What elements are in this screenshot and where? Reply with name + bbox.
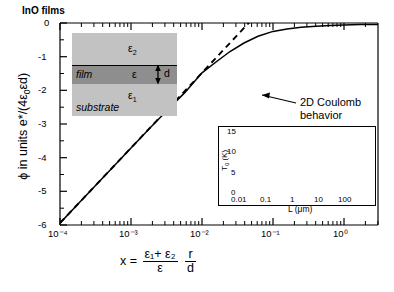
y-tick-label: -6 [38, 219, 46, 230]
inset-x-tick-label: 100 [338, 195, 351, 204]
x-tick-label: 10⁻³ [119, 228, 138, 239]
annotation-line-2: behavior [300, 109, 361, 122]
inset-x-tick-label: 0.1 [260, 195, 271, 204]
y-tick-label: -2 [38, 84, 46, 95]
inset-y-tick-label: 5 [231, 168, 235, 177]
x-axis-label: x = ε₁+ ε₂ ε r d [120, 248, 198, 275]
inset-x-tick-label: 0.01 [231, 195, 247, 204]
y-axis-label: ϕ in units e*/(4ε0εd) [16, 36, 33, 216]
y-tick-label: -3 [38, 118, 46, 129]
y-axis-label-text: ϕ in units e*/(4ε0εd) [16, 73, 30, 180]
x-tick-label: 10⁻⁴ [48, 228, 68, 239]
x-tick-label: 10⁻² [190, 228, 209, 239]
inset-x-tick-label: 1 [290, 195, 294, 204]
inset-x-axis-label: L (μm) [288, 204, 312, 214]
fraction-numerator: r [185, 248, 196, 262]
figure-panel: 0 -1 -2 -3 -4 -5 -6 10⁻⁴ 10⁻³ 10⁻² 10⁻¹ … [0, 0, 394, 292]
fraction-denominator: ε [143, 262, 178, 275]
inset-title: InO films [22, 5, 65, 16]
fraction-denominator: d [185, 262, 196, 275]
inset-y-tick-label: 10 [227, 147, 236, 156]
x-tick-label: 10⁻¹ [261, 228, 280, 239]
x-axis-label-fraction-2: r d [185, 248, 196, 275]
thickness-arrow [72, 33, 177, 116]
film-schematic: ε2 film ε d ε1 substrate [72, 33, 177, 116]
y-tick-label: -5 [38, 185, 46, 196]
fraction-numerator: ε₁+ ε₂ [143, 248, 178, 262]
x-axis-label-lead: x = [120, 254, 137, 268]
y-tick-label: 0 [44, 17, 49, 28]
inset-y-axis-label: T0 (K) [220, 135, 231, 185]
inset-x-tick-label: 10 [314, 195, 323, 204]
x-tick-label: 10⁰ [333, 228, 348, 239]
annotation-2d-coulomb: 2D Coulomb behavior [300, 96, 361, 122]
x-axis-label-fraction-1: ε₁+ ε₂ ε [143, 248, 178, 275]
y-tick-label: -4 [38, 152, 46, 163]
inset-plot-ino-films [218, 126, 376, 206]
annotation-line-1: 2D Coulomb [300, 96, 361, 109]
inset-y-tick-label: 15 [227, 127, 236, 136]
annotation-leader-line [262, 93, 296, 104]
y-tick-label: -1 [38, 51, 46, 62]
y-major-ticks [60, 23, 67, 225]
